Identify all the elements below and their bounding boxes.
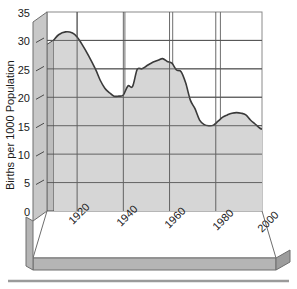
y-tick-label: 10 [18, 149, 30, 161]
y-axis-title: Births per 1000 Population [4, 60, 16, 190]
y-tick-label: 5 [24, 177, 30, 189]
birth-rate-area-chart: 35 30 25 20 15 10 5 0 Births per 1000 Po… [0, 0, 297, 289]
y-tick-label: 0 [24, 206, 30, 218]
y-tick-label: 35 [18, 7, 30, 19]
chart-container: 35 30 25 20 15 10 5 0 Births per 1000 Po… [0, 0, 297, 289]
chart-floor [26, 211, 290, 270]
y-tick-label: 30 [18, 35, 30, 47]
y-tick-label: 15 [18, 121, 30, 133]
y-axis-slab [33, 12, 47, 221]
y-tick-label: 20 [18, 92, 30, 104]
y-tick-label: 25 [18, 64, 30, 76]
y-axis-tick-labels: 35 30 25 20 15 10 5 0 [18, 7, 30, 218]
